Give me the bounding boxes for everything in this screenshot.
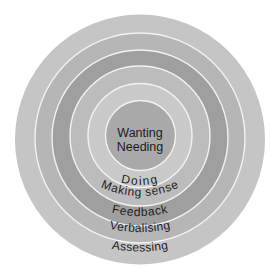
center-label: Wanting Needing (95, 126, 185, 154)
center-label-wanting: Wanting (95, 126, 185, 140)
center-label-needing: Needing (95, 140, 185, 154)
